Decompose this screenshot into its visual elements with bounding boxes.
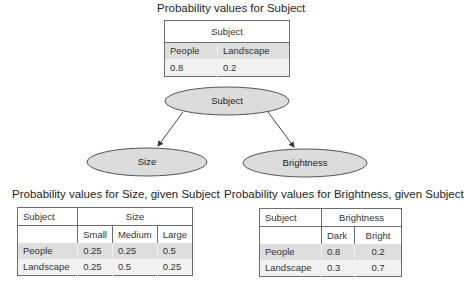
brightness-table-title: Probability values for Brightness, given… — [224, 188, 464, 200]
node-size-label: Size — [97, 156, 197, 167]
size-row-header: Subject — [18, 208, 78, 226]
col-medium: Medium — [112, 226, 157, 243]
table-row: People 0.25 0.25 0.5 — [18, 243, 193, 259]
table-row: People 0.8 0.2 — [260, 244, 402, 260]
edge-subject-brightness — [268, 112, 294, 147]
col-large: Large — [157, 226, 192, 243]
size-group-header: Size — [78, 208, 193, 226]
col-dark: Dark — [322, 227, 355, 244]
edge-subject-size — [158, 112, 183, 146]
brightness-probability-table: Subject Brightness Dark Bright People 0.… — [259, 208, 402, 277]
brightness-group-header: Brightness — [322, 209, 402, 227]
node-brightness-label: Brightness — [255, 157, 355, 168]
table-row: Landscape 0.25 0.5 0.25 — [18, 259, 193, 276]
table-row: Landscape 0.3 0.7 — [260, 260, 402, 277]
brightness-row-header: Subject — [260, 209, 322, 227]
size-probability-table: Subject Size Small Medium Large People 0… — [17, 207, 193, 276]
col-bright: Bright — [355, 227, 402, 244]
node-subject-label: Subject — [177, 95, 277, 106]
size-table-title: Probability values for Size, given Subje… — [12, 188, 220, 200]
col-small: Small — [78, 226, 113, 243]
